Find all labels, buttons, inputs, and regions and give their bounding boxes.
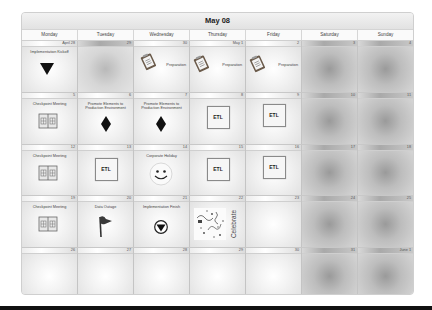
date-label: 25: [358, 196, 413, 202]
day-name-tuesday: Tuesday: [78, 30, 134, 40]
date-label: 31: [302, 248, 357, 254]
week-row: April 28 Implementation Kickoff 29 30 Pr…: [22, 41, 413, 93]
day-cell[interactable]: 13 ETL: [78, 145, 134, 196]
week-row: 19 Checkpoint Meeting 20 Data Outage 2: [22, 196, 413, 248]
date-label: 2: [246, 41, 301, 47]
day-cell[interactable]: 11: [358, 93, 413, 144]
day-name-friday: Friday: [246, 30, 302, 40]
week-row: 12 Checkpoint Meeting 13 ETL 14 Corporat…: [22, 145, 413, 197]
day-cell[interactable]: 30: [246, 248, 302, 295]
event-label[interactable]: Checkpoint Meeting: [22, 102, 77, 107]
day-cell[interactable]: 30 Preparation: [134, 41, 190, 92]
day-cell[interactable]: 6 Promote Elements to Production Environ…: [78, 93, 134, 144]
date-label: May 1: [190, 41, 245, 47]
day-cell[interactable]: 12 Checkpoint Meeting: [22, 145, 78, 196]
date-label: 30: [246, 248, 301, 254]
date-label: 12: [22, 145, 77, 151]
event-label[interactable]: Promote Elements to Production Environme…: [78, 102, 133, 111]
day-cell[interactable]: 28: [134, 248, 190, 295]
day-cell[interactable]: 29: [78, 41, 134, 92]
date-label: 14: [134, 145, 189, 151]
day-cell[interactable]: 26: [22, 248, 78, 295]
calendar-grid: April 28 Implementation Kickoff 29 30 Pr…: [22, 41, 413, 295]
day-name-thursday: Thursday: [190, 30, 246, 40]
date-label: 10: [302, 93, 357, 99]
day-cell[interactable]: May 1 Preparation: [190, 41, 246, 92]
date-label: 29: [190, 248, 245, 254]
week-row: 26 27 28 29 30 31 June 1: [22, 248, 413, 295]
confetti-icon: Celebrate: [194, 206, 242, 244]
day-cell[interactable]: 14 Corporate Holiday: [134, 145, 190, 196]
calendar-book-icon: [38, 165, 58, 181]
day-cell[interactable]: 17: [302, 145, 358, 196]
event-label[interactable]: Preparation: [222, 63, 242, 68]
day-cell[interactable]: 31: [302, 248, 358, 295]
date-label: 18: [358, 145, 413, 151]
day-cell[interactable]: 5 Checkpoint Meeting: [22, 93, 78, 144]
etl-box-icon[interactable]: ETL: [263, 104, 286, 127]
event-label[interactable]: Corporate Holiday: [134, 154, 189, 159]
day-cell[interactable]: June 1: [358, 248, 413, 295]
month-calendar: May 08 Monday Tuesday Wednesday Thursday…: [21, 12, 414, 295]
day-cell[interactable]: 19 Checkpoint Meeting: [22, 196, 78, 247]
day-cell[interactable]: 18: [358, 145, 413, 196]
day-cell[interactable]: 22 Celebrate: [190, 196, 246, 247]
day-cell[interactable]: 4: [358, 41, 413, 92]
day-cell[interactable]: 10: [302, 93, 358, 144]
date-label: 17: [302, 145, 357, 151]
date-label: 11: [358, 93, 413, 99]
event-label[interactable]: Promote Elements to Production Environme…: [134, 102, 189, 111]
date-label: 30: [134, 41, 189, 47]
day-cell[interactable]: 29: [190, 248, 246, 295]
day-cell[interactable]: 2 Preparation: [246, 41, 302, 92]
date-label: April 28: [22, 41, 77, 47]
diamond-icon: [101, 116, 111, 132]
date-label: June 1: [358, 248, 413, 254]
event-label[interactable]: Checkpoint Meeting: [22, 154, 77, 159]
date-label: 24: [302, 196, 357, 202]
day-cell[interactable]: 16 ETL: [246, 145, 302, 196]
day-cell[interactable]: April 28 Implementation Kickoff: [22, 41, 78, 92]
event-label[interactable]: Preparation: [166, 63, 186, 68]
date-label: 23: [246, 196, 301, 202]
day-cell[interactable]: 8 ETL: [190, 93, 246, 144]
calendar-book-icon: [38, 113, 58, 129]
celebrate-text: Celebrate: [230, 210, 237, 239]
day-cell[interactable]: 9 ETL: [246, 93, 302, 144]
event-label[interactable]: Preparation: [278, 63, 298, 68]
triangle-down-icon: [40, 63, 54, 75]
date-label: 6: [78, 93, 133, 99]
clipboard-icon: [140, 53, 156, 71]
event-label[interactable]: Implementation Kickoff: [22, 50, 77, 55]
event-label[interactable]: Implementation Finish: [134, 205, 189, 210]
date-label: 7: [134, 93, 189, 99]
day-cell[interactable]: 23: [246, 196, 302, 247]
date-label: 26: [22, 248, 77, 254]
day-cell[interactable]: 21 Implementation Finish: [134, 196, 190, 247]
date-label: 13: [78, 145, 133, 151]
date-label: 29: [78, 41, 133, 47]
date-label: 27: [78, 248, 133, 254]
day-name-saturday: Saturday: [302, 30, 358, 40]
event-label[interactable]: Data Outage: [78, 205, 133, 210]
date-label: 19: [22, 196, 77, 202]
day-cell[interactable]: 24: [302, 196, 358, 247]
day-cell[interactable]: 15 ETL: [190, 145, 246, 196]
circle-triangle-icon: [154, 220, 168, 234]
day-cell[interactable]: 27: [78, 248, 134, 295]
date-label: 16: [246, 145, 301, 151]
day-cell[interactable]: 3: [302, 41, 358, 92]
etl-box-icon[interactable]: ETL: [207, 158, 230, 181]
etl-box-icon[interactable]: ETL: [95, 158, 118, 181]
week-row: 5 Checkpoint Meeting 6 Promote Elements …: [22, 93, 413, 145]
day-name-wednesday: Wednesday: [134, 30, 190, 40]
day-cell[interactable]: 20 Data Outage: [78, 196, 134, 247]
date-label: 8: [190, 93, 245, 99]
day-cell[interactable]: 7 Promote Elements to Production Environ…: [134, 93, 190, 144]
day-name-sunday: Sunday: [358, 30, 413, 40]
day-cell[interactable]: 25: [358, 196, 413, 247]
etl-box-icon[interactable]: ETL: [263, 156, 286, 179]
etl-box-icon[interactable]: ETL: [207, 106, 230, 129]
event-label[interactable]: Checkpoint Meeting: [22, 205, 77, 210]
date-label: 20: [78, 196, 133, 202]
